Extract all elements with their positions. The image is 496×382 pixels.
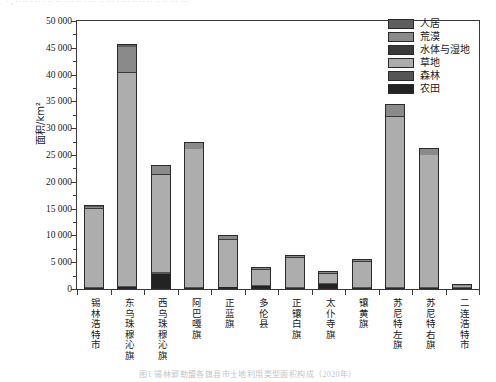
bar-segment xyxy=(151,166,171,174)
y-tick-label: 45 000 xyxy=(16,43,72,53)
bar-segment xyxy=(419,288,439,289)
legend-swatch-icon xyxy=(388,84,414,94)
x-tick-label: 正蓝旗 xyxy=(221,298,234,330)
x-tick-label: 太仆寺旗 xyxy=(322,298,335,340)
bar-segment xyxy=(151,274,171,289)
legend-label: 森林 xyxy=(420,70,440,81)
y-tick-label: 10 000 xyxy=(16,230,72,240)
legend-item[interactable]: 人居 xyxy=(388,18,470,29)
bar-stack xyxy=(151,165,171,289)
bar-segment xyxy=(285,258,305,287)
top-cutoff-text: · , ·· ·· · ·· · ·· ·· ···· ·· · ··· ·· … xyxy=(0,0,496,8)
x-tick xyxy=(446,290,447,295)
legend-swatch-icon xyxy=(388,19,414,29)
bar-segment xyxy=(84,288,104,289)
bar-segment xyxy=(385,288,405,289)
bar-segment xyxy=(151,175,171,272)
bar-segment xyxy=(385,105,405,116)
legend-item[interactable]: 森林 xyxy=(388,70,470,81)
x-tick xyxy=(412,290,413,295)
bar-stack xyxy=(419,148,439,289)
x-tick-label: 阿巴嘎旗 xyxy=(188,298,201,340)
bar-segment xyxy=(184,149,204,287)
x-tick xyxy=(345,290,346,295)
bar-stack xyxy=(285,255,305,289)
chart-figure: 面积/km² 05 00010 00015 00020 00025 00030 … xyxy=(0,8,496,353)
legend-label: 水体与湿地 xyxy=(420,44,470,55)
bar-segment xyxy=(251,286,271,289)
legend: 人居荒漠水体与湿地草地森林农田 xyxy=(388,18,470,94)
legend-label: 农田 xyxy=(420,83,440,94)
x-tick-label: 东乌珠穆沁旗 xyxy=(121,298,134,361)
legend-swatch-icon xyxy=(388,45,414,55)
figure-caption-cutoff: 图1 锡林郭勒盟各旗县市土地利用类型面积构成（2020年） xyxy=(0,368,496,382)
y-tick-label: 40 000 xyxy=(16,70,72,80)
x-tick-label: 正镶白旗 xyxy=(288,298,301,340)
bar-segment xyxy=(318,274,338,283)
x-tick xyxy=(178,290,179,295)
legend-swatch-icon xyxy=(388,58,414,68)
x-tick xyxy=(111,290,112,295)
legend-label: 荒漠 xyxy=(420,31,440,42)
x-axis-ticks xyxy=(77,290,479,296)
x-tick xyxy=(77,290,78,295)
bar-segment xyxy=(117,47,137,72)
y-tick-label: 50 000 xyxy=(16,16,72,26)
legend-item[interactable]: 水体与湿地 xyxy=(388,44,470,55)
bar-segment xyxy=(117,73,137,286)
y-tick-label: 15 000 xyxy=(16,204,72,214)
bar-segment xyxy=(184,288,204,289)
y-tick-label: 0 xyxy=(16,284,72,294)
y-tick-label: 5 000 xyxy=(16,257,72,267)
y-tick-label: 30 000 xyxy=(16,123,72,133)
bar-stack xyxy=(452,284,472,289)
x-tick xyxy=(144,290,145,295)
bar-stack xyxy=(352,259,372,289)
x-tick-label: 西乌珠穆沁旗 xyxy=(154,298,167,361)
y-axis-tick-labels: 05 00010 00015 00020 00025 00030 00035 0… xyxy=(12,20,72,290)
bar-stack xyxy=(117,44,137,289)
bar-stack xyxy=(218,235,238,289)
bar-stack xyxy=(385,104,405,289)
x-tick-label: 二连浩特市 xyxy=(456,298,469,351)
legend-item[interactable]: 农田 xyxy=(388,83,470,94)
bar-segment xyxy=(84,209,104,287)
bar-segment xyxy=(117,287,137,289)
x-tick xyxy=(479,290,480,295)
bar-segment xyxy=(352,262,372,287)
x-tick xyxy=(211,290,212,295)
x-tick-label: 苏尼特左旗 xyxy=(389,298,402,351)
bar-segment xyxy=(218,287,238,289)
legend-swatch-icon xyxy=(388,71,414,81)
bar-segment xyxy=(452,288,472,289)
y-tick-label: 20 000 xyxy=(16,177,72,187)
legend-label: 草地 xyxy=(420,57,440,68)
x-tick-label: 锡林浩特市 xyxy=(87,298,100,351)
x-tick xyxy=(245,290,246,295)
bar-segment xyxy=(218,240,238,287)
bar-stack xyxy=(251,267,271,289)
x-tick xyxy=(278,290,279,295)
bar-segment xyxy=(251,270,271,286)
y-tick-label: 25 000 xyxy=(16,150,72,160)
bar-stack xyxy=(184,142,204,289)
bar-stack xyxy=(84,205,104,289)
bar-segment xyxy=(285,288,305,289)
bar-segment xyxy=(419,155,439,287)
legend-label: 人居 xyxy=(420,18,440,29)
bar-segment xyxy=(352,288,372,289)
x-tick xyxy=(312,290,313,295)
y-tick-label: 35 000 xyxy=(16,96,72,106)
x-tick xyxy=(379,290,380,295)
bar-stack xyxy=(318,271,338,289)
legend-item[interactable]: 荒漠 xyxy=(388,31,470,42)
legend-item[interactable]: 草地 xyxy=(388,57,470,68)
x-tick-label: 苏尼特右旗 xyxy=(422,298,435,351)
x-tick-label: 镶黄旗 xyxy=(355,298,368,330)
legend-swatch-icon xyxy=(388,32,414,42)
bar-segment xyxy=(385,117,405,287)
x-tick-label: 多伦县 xyxy=(255,298,268,330)
bar-segment xyxy=(318,284,338,289)
